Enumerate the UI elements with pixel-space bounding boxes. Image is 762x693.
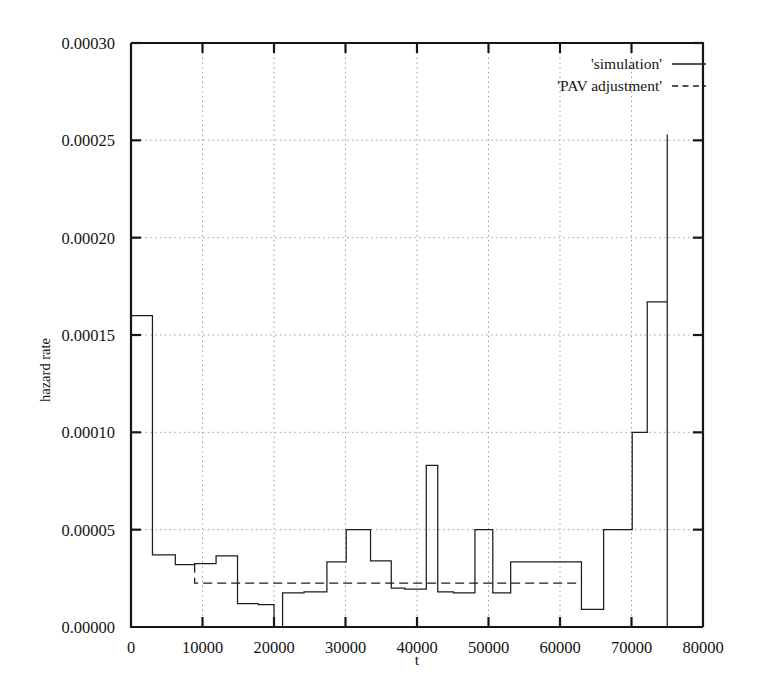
- x-tick-label: 10000: [182, 638, 223, 657]
- legend-label-simulation: 'simulation': [591, 55, 662, 72]
- y-tick-label: 0.00025: [61, 131, 115, 150]
- x-tick-label: 70000: [611, 638, 652, 657]
- y-tick-label: 0.00015: [61, 326, 115, 345]
- chart-figure: 0.000000.000050.000100.000150.000200.000…: [0, 0, 762, 693]
- x-tick-label: 80000: [682, 638, 723, 657]
- y-tick-label: 0.00005: [61, 521, 115, 540]
- series-simulation-line: [131, 134, 667, 627]
- y-tick-label: 0.00030: [61, 34, 115, 53]
- y-axis-title: hazard rate: [37, 338, 53, 402]
- grid-lines: [131, 43, 703, 627]
- x-tick-label: 0: [127, 638, 135, 657]
- y-tick-label: 0.00010: [61, 423, 115, 442]
- series-pav-adjustment-line: [195, 564, 582, 583]
- x-tick-labels: 0100002000030000400005000060000700008000…: [127, 638, 724, 657]
- x-tick-label: 60000: [539, 638, 580, 657]
- x-tick-label: 20000: [253, 638, 294, 657]
- x-tick-label: 30000: [325, 638, 366, 657]
- x-tick-label: 50000: [468, 638, 509, 657]
- y-tick-label: 0.00000: [61, 618, 115, 637]
- chart-legend: 'simulation' 'PAV adjustment': [557, 55, 706, 94]
- legend-label-pav-adjustment: 'PAV adjustment': [557, 77, 662, 94]
- y-tick-labels: 0.000000.000050.000100.000150.000200.000…: [61, 34, 115, 637]
- data-series: [131, 134, 667, 627]
- y-tick-label: 0.00020: [61, 229, 115, 248]
- x-axis-title: t: [415, 651, 420, 668]
- hazard-rate-step-chart: 0.000000.000050.000100.000150.000200.000…: [0, 0, 762, 693]
